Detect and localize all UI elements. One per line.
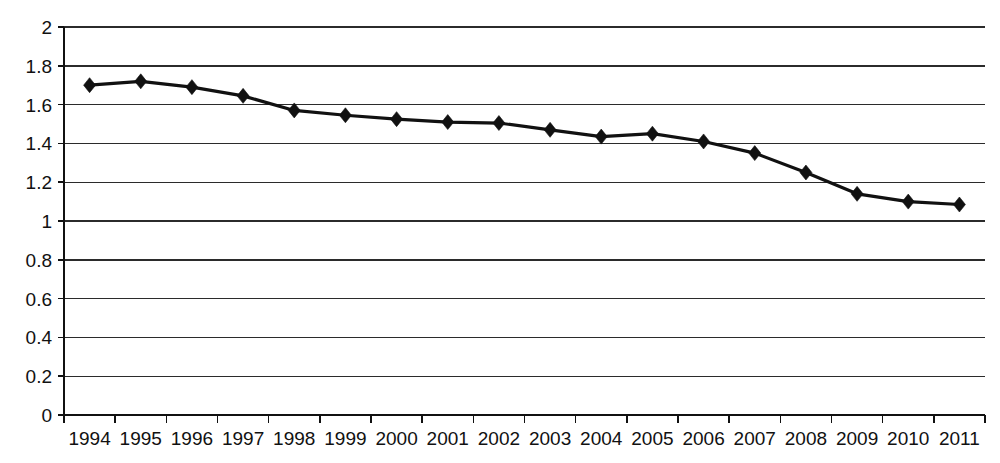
- y-tick-label: 1.8: [26, 56, 52, 77]
- chart-background: [0, 0, 1000, 463]
- x-tick-label: 1995: [120, 428, 162, 449]
- y-tick-label: 0.6: [26, 289, 52, 310]
- chart-container: 00.20.40.60.811.21.41.61.82 199419951996…: [0, 0, 1000, 463]
- x-tick-label: 2005: [631, 428, 673, 449]
- x-tick-label: 1999: [324, 428, 366, 449]
- x-tick-label: 2006: [682, 428, 724, 449]
- x-tick-label: 2010: [887, 428, 929, 449]
- y-tick-label: 1: [41, 211, 52, 232]
- x-tick-label: 1996: [171, 428, 213, 449]
- x-tick-label: 2009: [836, 428, 878, 449]
- x-tick-label: 1997: [222, 428, 264, 449]
- y-tick-label: 1.4: [26, 133, 53, 154]
- x-tick-label: 2001: [427, 428, 469, 449]
- line-chart: 00.20.40.60.811.21.41.61.82 199419951996…: [0, 0, 1000, 463]
- y-tick-label: 0.8: [26, 250, 52, 271]
- x-tick-label: 2004: [580, 428, 623, 449]
- x-tick-label: 2007: [734, 428, 776, 449]
- y-tick-label: 0: [41, 405, 52, 426]
- y-tick-label: 1.2: [26, 172, 52, 193]
- x-tick-label: 2011: [939, 428, 980, 449]
- x-tick-label: 2002: [478, 428, 520, 449]
- x-tick-label: 2000: [375, 428, 417, 449]
- x-tick-label: 2008: [785, 428, 827, 449]
- x-tick-label: 2003: [529, 428, 571, 449]
- y-tick-label: 0.2: [26, 366, 52, 387]
- y-tick-label: 2: [41, 17, 52, 38]
- x-tick-label: 1998: [273, 428, 315, 449]
- y-tick-label: 1.6: [26, 95, 52, 116]
- y-tick-label: 0.4: [26, 327, 53, 348]
- x-tick-label: 1994: [68, 428, 111, 449]
